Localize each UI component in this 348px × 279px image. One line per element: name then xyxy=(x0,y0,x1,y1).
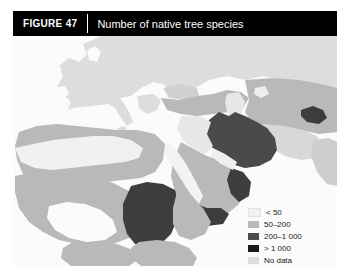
figure-number-label: FIGURE 47 xyxy=(13,18,87,29)
legend-label: < 50 xyxy=(266,208,282,217)
legend-label: 200–1 000 xyxy=(264,232,302,241)
legend-item: < 50 xyxy=(248,207,334,218)
figure-header: FIGURE 47 Number of native tree species xyxy=(13,11,337,36)
legend-swatch xyxy=(248,208,261,217)
legend-swatch xyxy=(248,257,259,264)
map-legend: < 50 50–200 200–1 000 > 1 000 No data xyxy=(248,207,334,266)
legend-swatch xyxy=(248,245,259,252)
legend-item: No data xyxy=(248,255,334,266)
legend-swatch xyxy=(248,233,259,240)
legend-label: > 1 000 xyxy=(264,244,291,253)
figure-container: FIGURE 47 Number of native tree species xyxy=(13,11,337,266)
legend-item: > 1 000 xyxy=(248,243,334,254)
legend-swatch xyxy=(248,221,259,228)
legend-item: 50–200 xyxy=(248,219,334,230)
page-title: Number of native tree species xyxy=(88,18,243,30)
legend-label: No data xyxy=(264,256,292,265)
map-panel: < 50 50–200 200–1 000 > 1 000 No data xyxy=(13,36,337,266)
legend-label: 50–200 xyxy=(264,220,291,229)
legend-item: 200–1 000 xyxy=(248,231,334,242)
